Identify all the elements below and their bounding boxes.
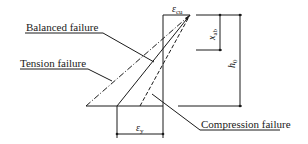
tick-h0-bottom <box>239 105 242 108</box>
tension-strain-line <box>86 15 190 106</box>
compression-failure-label: Compression failure <box>201 118 291 130</box>
ecu-symbol: εcu <box>172 3 183 16</box>
strain-distribution-diagram: Balanced failure Tension failure Compres… <box>0 0 308 144</box>
xab-symbol: xab <box>206 28 219 41</box>
tick-h0-top <box>239 14 242 17</box>
compression-strain-line <box>140 15 190 106</box>
ey-symbol: εy <box>136 122 144 135</box>
balanced-strain-line <box>117 15 190 106</box>
tick-xab-bottom <box>219 49 222 52</box>
tension-leader <box>20 69 112 81</box>
tick-ey-left <box>116 133 119 136</box>
tension-failure-label: Tension failure <box>20 57 86 69</box>
tick-ey-right <box>162 133 165 136</box>
balanced-failure-label: Balanced failure <box>26 21 98 33</box>
tick-xab-top <box>219 14 222 17</box>
h0-symbol: h0 <box>226 59 239 68</box>
